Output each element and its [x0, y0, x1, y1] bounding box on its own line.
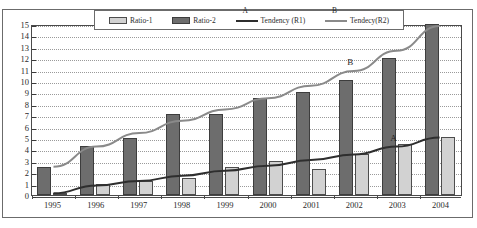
x-axis: 1995199619971998199920002001200220032004 — [31, 200, 462, 216]
curve-label-a: A — [390, 134, 397, 143]
x-axis-tick-label: 2004 — [419, 200, 462, 210]
x-axis-tick — [291, 195, 292, 199]
plot-area: AB — [31, 25, 462, 196]
x-axis-tick — [377, 195, 378, 199]
y-axis-tick-label: 14 — [5, 32, 29, 41]
y-axis-tick-label: 15 — [5, 21, 29, 30]
chart-root: 0123456789101112131415 AB 19951996199719… — [0, 0, 477, 228]
legend-label: Ratio-1 — [130, 16, 153, 25]
x-axis-tick-label: 1999 — [203, 200, 246, 210]
x-axis-tick-label: 2000 — [247, 200, 290, 210]
x-axis-tick — [118, 195, 119, 199]
x-axis-tick — [248, 195, 249, 199]
x-axis-tick — [161, 195, 162, 199]
y-axis-tick-label: 2 — [5, 169, 29, 178]
curve-label-b: B — [347, 58, 353, 67]
legend-swatch-ratio2 — [172, 17, 190, 24]
x-axis-tick — [32, 195, 33, 199]
y-axis-tick-label: 10 — [5, 78, 29, 87]
x-axis-tick — [75, 195, 76, 199]
legend-item-tendency-r1-[interactable]: ATendency (R1) — [236, 16, 306, 25]
y-axis-tick-label: 4 — [5, 146, 29, 155]
legend-label: Ratio-2 — [193, 16, 216, 25]
legend-item-ratio-1[interactable]: Ratio-1 — [109, 16, 153, 25]
y-axis-tick-label: 13 — [5, 44, 29, 53]
legend-line-swatch-r2: B — [325, 16, 347, 24]
gridline — [32, 197, 461, 198]
x-axis-tick-label: 1998 — [160, 200, 203, 210]
y-axis-tick-label: 5 — [5, 135, 29, 144]
legend-label: Tendency (R1) — [261, 16, 306, 25]
x-axis-tick-label: 1996 — [74, 200, 117, 210]
y-axis-tick-label: 7 — [5, 112, 29, 121]
x-axis-tick-label: 1997 — [117, 200, 160, 210]
x-axis-tick-label: 2002 — [333, 200, 376, 210]
legend-label: Tendecy(R2) — [350, 16, 389, 25]
y-axis-tick-label: 8 — [5, 101, 29, 110]
x-axis-tick-label: 2003 — [376, 200, 419, 210]
legend-item-tendecy-r2-[interactable]: BTendecy(R2) — [325, 16, 389, 25]
x-axis-tick-label: 2001 — [290, 200, 333, 210]
x-axis-tick — [204, 195, 205, 199]
y-axis-tick-label: 0 — [5, 192, 29, 201]
y-axis-tick-label: 6 — [5, 124, 29, 133]
curve-annotations: AB — [32, 26, 461, 195]
x-axis-tick — [334, 195, 335, 199]
y-axis-tick-label: 11 — [5, 67, 29, 76]
chart-legend: Ratio-1Ratio-2ATendency (R1)BTendecy(R2) — [94, 10, 404, 30]
legend-tag-a: A — [243, 7, 248, 15]
y-axis-tick-label: 12 — [5, 55, 29, 64]
x-axis-tick-label: 1995 — [31, 200, 74, 210]
y-axis-tick-label: 3 — [5, 158, 29, 167]
legend-swatch-ratio1 — [109, 17, 127, 24]
y-axis: 0123456789101112131415 — [2, 25, 29, 196]
legend-item-ratio-2[interactable]: Ratio-2 — [172, 16, 216, 25]
y-axis-tick-label: 1 — [5, 181, 29, 190]
y-axis-tick-label: 9 — [5, 89, 29, 98]
legend-tag-b: B — [332, 7, 337, 15]
x-axis-tick — [420, 195, 421, 199]
legend-line-swatch-r1: A — [236, 16, 258, 24]
